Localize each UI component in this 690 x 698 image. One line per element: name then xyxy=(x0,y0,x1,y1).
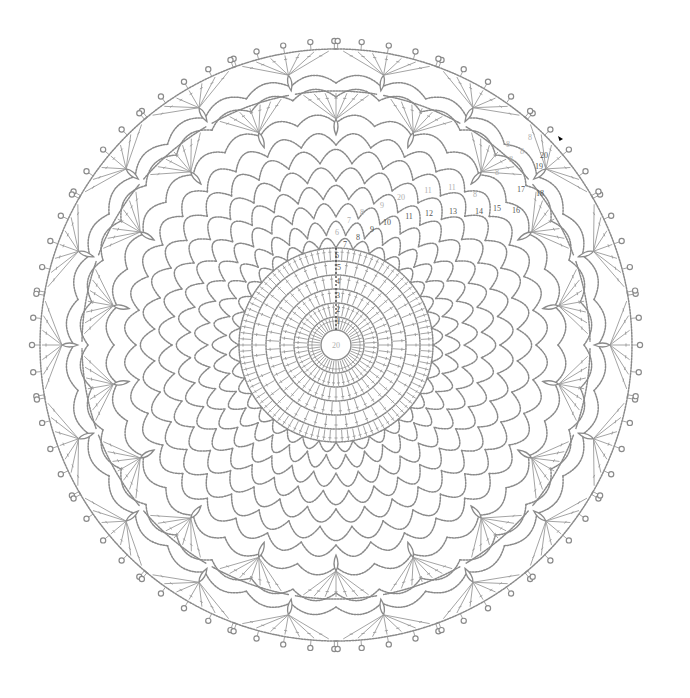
picot-icon xyxy=(308,39,313,44)
treble-stitch xyxy=(330,430,331,441)
treble-stitch xyxy=(340,319,343,330)
treble-bar xyxy=(386,330,387,333)
treble-stitch xyxy=(299,327,310,332)
treble-stitch xyxy=(264,401,272,408)
picot-icon xyxy=(137,111,142,116)
treble-bar xyxy=(459,82,462,83)
treble-bar xyxy=(247,314,248,317)
treble-stitch xyxy=(374,421,379,431)
treble-bar xyxy=(575,403,576,406)
chain-loop xyxy=(298,188,323,204)
treble-stitch xyxy=(241,356,252,357)
treble-stitch xyxy=(267,349,279,350)
treble-bar xyxy=(294,261,297,262)
treble-stitch xyxy=(253,297,263,303)
chain-loop xyxy=(164,374,182,402)
treble-stitch xyxy=(164,582,199,583)
teardrop-shell xyxy=(471,506,481,518)
chain-loop xyxy=(233,312,245,328)
chain-loop xyxy=(456,407,475,429)
chain-loop xyxy=(323,185,348,199)
chain-loop xyxy=(308,223,327,239)
treble-stitch xyxy=(277,395,285,403)
treble-stitch xyxy=(256,62,288,75)
pineapple-fan xyxy=(99,185,155,255)
picot-icon xyxy=(596,189,601,194)
round-number-label: 14 xyxy=(475,207,483,216)
treble-stitch xyxy=(532,442,569,458)
treble-stitch xyxy=(358,252,361,263)
chain-loop xyxy=(272,456,292,474)
treble-stitch xyxy=(410,388,420,394)
treble-stitch xyxy=(412,383,422,388)
treble-stitch xyxy=(397,381,407,387)
chain-loop xyxy=(465,449,489,474)
chain-loop xyxy=(400,228,420,247)
treble-bar xyxy=(246,368,247,371)
treble-stitch xyxy=(532,458,549,480)
treble-bar xyxy=(396,61,399,62)
treble-stitch xyxy=(559,378,586,384)
treble-stitch xyxy=(298,288,305,298)
treble-stitch xyxy=(352,294,357,305)
treble-bar xyxy=(301,360,302,363)
treble-bar xyxy=(448,78,451,79)
treble-stitch xyxy=(593,244,612,251)
treble-bar xyxy=(618,409,619,412)
treble-bar xyxy=(285,357,286,360)
chain-loop xyxy=(365,499,393,517)
treble-stitch xyxy=(396,277,404,285)
treble-bar xyxy=(386,357,387,360)
treble-stitch xyxy=(273,409,280,417)
treble-stitch xyxy=(329,290,331,302)
treble-stitch xyxy=(386,286,394,294)
chain-loop xyxy=(456,261,475,283)
treble-stitch xyxy=(392,388,402,395)
treble-bar xyxy=(409,313,410,316)
chain-loop xyxy=(400,443,420,462)
round-number-label: 8 xyxy=(509,155,513,164)
treble-stitch xyxy=(297,332,308,336)
treble-stitch xyxy=(338,361,339,372)
treble-stitch xyxy=(240,351,251,352)
round-number-label: 5 xyxy=(337,263,341,272)
chain-loop xyxy=(320,149,352,163)
treble-stitch xyxy=(260,397,269,404)
treble-bar xyxy=(242,573,245,574)
chain-loop xyxy=(182,191,208,217)
treble-bar xyxy=(300,331,301,334)
treble-bar xyxy=(114,451,115,454)
treble-bar xyxy=(275,584,278,585)
pineapple-fan xyxy=(525,492,603,582)
treble-stitch xyxy=(403,397,412,404)
treble-stitch xyxy=(297,306,305,314)
chain-loop xyxy=(555,345,566,384)
treble-stitch xyxy=(342,290,344,302)
treble-stitch xyxy=(392,356,404,358)
treble-stitch xyxy=(351,349,362,352)
chain-loop xyxy=(336,115,375,126)
treble-bar xyxy=(353,436,356,437)
picot-icon xyxy=(40,420,45,425)
treble-bar xyxy=(409,374,410,377)
treble-stitch xyxy=(302,361,312,368)
chain-loop xyxy=(125,345,139,380)
treble-bar xyxy=(370,430,373,431)
picot-icon xyxy=(386,642,391,647)
treble-stitch xyxy=(174,152,191,172)
treble-bar xyxy=(267,107,270,108)
picot-icon xyxy=(254,636,259,641)
teardrop-shell xyxy=(334,555,338,571)
chain-loop xyxy=(308,168,337,184)
treble-stitch xyxy=(103,232,140,248)
treble-bar xyxy=(322,381,325,382)
picot-icon xyxy=(335,38,340,43)
chain-loop xyxy=(506,456,529,488)
treble-bar xyxy=(561,443,562,446)
treble-stitch xyxy=(390,323,401,327)
chain-loop xyxy=(320,526,352,540)
treble-stitch xyxy=(379,383,388,391)
treble-stitch xyxy=(378,356,390,359)
treble-stitch xyxy=(397,304,407,310)
treble-bar xyxy=(359,350,360,353)
